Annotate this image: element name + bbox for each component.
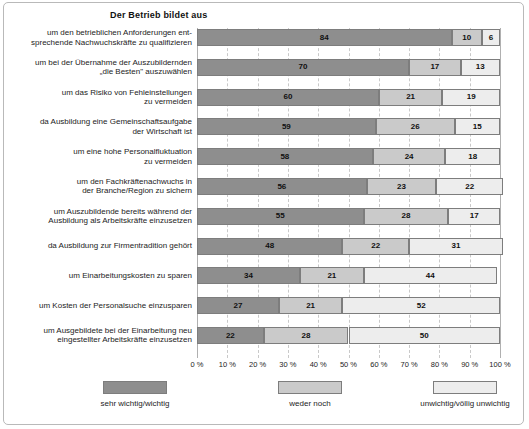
bar-segment: 23 <box>367 178 437 195</box>
category-label: um Einarbeitungskosten zu sparen <box>14 271 192 281</box>
bar-value-label: 21 <box>327 272 336 280</box>
bar-value-label: 23 <box>397 183 406 191</box>
bar-segment: 31 <box>409 238 503 255</box>
bar-value-label: 56 <box>277 183 286 191</box>
bar-row: 222850 <box>197 327 500 344</box>
x-axis-tick-labels: 0 %10 %20 %30 %40 %50 %60 %70 %80 %90 %1… <box>197 360 500 374</box>
bar-value-label: 60 <box>283 93 292 101</box>
bar-value-label: 28 <box>402 212 411 220</box>
bar-value-label: 24 <box>405 153 414 161</box>
chart-legend: sehr wichtig/wichtigweder nochunwichtig/… <box>10 381 519 417</box>
legend-label: sehr wichtig/wichtig <box>45 399 225 408</box>
bar-segment: 59 <box>197 118 376 135</box>
bar-value-label: 55 <box>276 212 285 220</box>
x-tick-label: 70 % <box>401 360 418 369</box>
chart-title: Der Betrieb bildet aus <box>110 10 207 20</box>
bar-row: 701713 <box>197 59 500 76</box>
bar-segment: 60 <box>197 89 379 106</box>
bar-row: 582418 <box>197 148 500 165</box>
bar-row: 272152 <box>197 297 500 314</box>
bar-value-label: 48 <box>265 242 274 250</box>
category-label: um eine hohe Personalfluktuation zu verm… <box>14 147 192 166</box>
category-label: da Ausbildung zur Firmentradition gehört <box>14 241 192 251</box>
legend-item[interactable]: unwichtig/völlig unwichtig <box>375 381 529 408</box>
bar-row: 562322 <box>197 178 500 195</box>
bar-segment: 21 <box>379 89 443 106</box>
bar-segment: 17 <box>409 59 461 76</box>
bar-segment: 13 <box>461 59 500 76</box>
bar-segment: 19 <box>442 89 500 106</box>
x-tick-label: 40 % <box>310 360 327 369</box>
legend-label: weder noch <box>220 399 400 408</box>
x-tick-label: 20 % <box>249 360 266 369</box>
bar-segment: 44 <box>364 267 497 284</box>
category-axis-labels: um den betrieblichen Anforderungen ent- … <box>12 28 192 358</box>
bar-segment: 6 <box>482 29 500 46</box>
bar-segment: 70 <box>197 59 409 76</box>
category-label: um den Fachkräftenachwuchs in der Branch… <box>14 177 192 196</box>
x-tick-label: 100 % <box>489 360 510 369</box>
legend-item[interactable]: weder noch <box>220 381 400 408</box>
bar-segment: 10 <box>452 29 482 46</box>
bar-value-label: 44 <box>426 272 435 280</box>
bar-value-label: 70 <box>299 63 308 71</box>
category-label: da Ausbildung eine Gemeinschaftsaufgabe … <box>14 117 192 136</box>
bar-segment: 22 <box>197 327 264 344</box>
bar-value-label: 10 <box>462 34 471 42</box>
bar-row: 602119 <box>197 89 500 106</box>
category-label: um das Risiko von Fehleinstellungen zu v… <box>14 88 192 107</box>
bar-value-label: 18 <box>468 153 477 161</box>
bar-value-label: 17 <box>470 212 479 220</box>
bar-segment: 22 <box>436 178 503 195</box>
bar-value-label: 34 <box>244 272 253 280</box>
bar-segment: 52 <box>342 297 500 314</box>
bar-value-label: 59 <box>282 123 291 131</box>
bar-value-label: 17 <box>430 63 439 71</box>
bar-segment: 26 <box>376 118 455 135</box>
legend-item[interactable]: sehr wichtig/wichtig <box>45 381 225 408</box>
bar-segment: 17 <box>448 208 500 225</box>
bar-row: 592615 <box>197 118 500 135</box>
x-tick-label: 50 % <box>340 360 357 369</box>
bar-row: 342144 <box>197 267 500 284</box>
category-label: um den betrieblichen Anforderungen ent- … <box>14 28 192 47</box>
plot-area: 8410670171360211959261558241856232255281… <box>197 28 500 358</box>
bar-row: 552817 <box>197 208 500 225</box>
x-tick-label: 0 % <box>191 360 204 369</box>
bar-segment: 21 <box>279 297 343 314</box>
bar-segment: 28 <box>264 327 349 344</box>
bar-segment: 55 <box>197 208 364 225</box>
x-tick-label: 10 % <box>219 360 236 369</box>
bar-segment: 48 <box>197 238 342 255</box>
bar-row: 482231 <box>197 238 500 255</box>
bar-value-label: 50 <box>420 332 429 340</box>
bar-value-label: 13 <box>476 63 485 71</box>
bar-row: 84106 <box>197 29 500 46</box>
chart-figure: Der Betrieb bildet aus um den betrieblic… <box>0 0 529 429</box>
bar-segment: 18 <box>445 148 500 165</box>
bar-segment: 34 <box>197 267 300 284</box>
x-tick-label: 90 % <box>461 360 478 369</box>
bar-value-label: 31 <box>452 242 461 250</box>
bar-value-label: 22 <box>465 183 474 191</box>
bar-value-label: 58 <box>280 153 289 161</box>
x-tick-label: 30 % <box>279 360 296 369</box>
bar-segment: 21 <box>300 267 364 284</box>
bar-segment: 24 <box>373 148 446 165</box>
category-label: um bei der Übernahme der Auszubildernden… <box>14 58 192 77</box>
legend-swatch <box>278 381 342 394</box>
category-label: um Auszubildende bereits während der Aus… <box>14 207 192 226</box>
bar-segment: 22 <box>342 238 409 255</box>
bar-value-label: 21 <box>306 302 315 310</box>
bar-value-label: 84 <box>320 34 329 42</box>
legend-swatch <box>103 381 167 394</box>
bar-segment: 56 <box>197 178 367 195</box>
bar-value-label: 21 <box>406 93 415 101</box>
bar-value-label: 26 <box>411 123 420 131</box>
bar-segment: 58 <box>197 148 373 165</box>
legend-label: unwichtig/völlig unwichtig <box>375 399 529 408</box>
bar-segment: 27 <box>197 297 279 314</box>
x-tick-label: 80 % <box>431 360 448 369</box>
category-label: um Ausgebildete bei der Einarbeitung neu… <box>14 326 192 345</box>
bar-value-label: 22 <box>371 242 380 250</box>
